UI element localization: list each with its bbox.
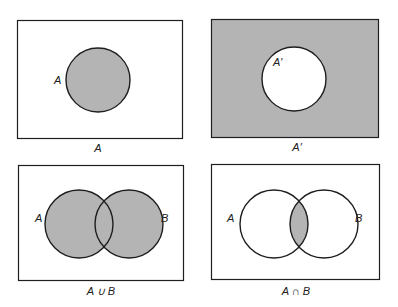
panel-caption: A ∩ B (281, 285, 310, 297)
panel-intersection: A B A ∩ B (212, 165, 380, 298)
set-a-label: A (53, 74, 61, 86)
set-a-circle (66, 48, 130, 112)
venn-diagrams: A A A′ A′ A B A ∪ B A B A ∩ B (0, 0, 398, 307)
panel-union: A B A ∪ B (19, 166, 184, 298)
set-a-circle (262, 47, 326, 111)
panel-set-a: A A (18, 21, 183, 155)
set-a-label: A (226, 212, 234, 224)
panel-caption: A′ (291, 141, 302, 153)
set-b-label: B (355, 212, 362, 224)
panel-caption: A ∪ B (86, 285, 115, 297)
set-b-label: B (161, 212, 168, 224)
panel-caption: A (93, 142, 101, 154)
panel-complement-a: A′ A′ (212, 20, 379, 154)
set-a-label: A (34, 212, 42, 224)
complement-label: A′ (272, 56, 283, 68)
